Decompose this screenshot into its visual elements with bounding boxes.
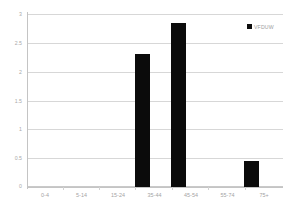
y-tick-label-2: 2 [0,69,22,75]
y-axis-line [27,12,28,189]
y-tick-label-0: 0 [0,183,22,189]
bar-45-54 [171,23,186,187]
chart-legend: VFDUW [247,22,274,31]
x-tickmark-5 [245,187,246,190]
bar-35-44 [135,54,150,187]
x-tick-label-55-74: 55-74 [221,192,235,199]
gridline-3 [27,14,283,15]
x-tick-label-5-14: 5-14 [76,192,87,199]
legend-label: VFDUW [254,24,274,30]
x-tick-label-35-44: 35-44 [148,192,162,199]
gridline-1 [27,129,283,130]
gridline-0_5 [27,158,283,159]
x-tick-label-45-54: 45-54 [184,192,198,199]
bar-75-plus [244,161,259,187]
x-tickmark-4 [208,187,209,190]
x-axis-tick-labels: 0-4 5-14 15-24 35-44 45-54 55-74 75+ [27,192,283,206]
x-tick-label-15-24: 15-24 [111,192,125,199]
plot-area [27,14,283,187]
gridline-1_5 [27,101,283,102]
y-tick-label-2_5: 2.5 [0,40,22,46]
y-tick-label-1_5: 1.5 [0,98,22,104]
x-tickmark-0 [63,187,64,190]
y-tick-label-0_5: 0.5 [0,155,22,161]
legend-swatch-icon [247,24,252,29]
x-tick-label-0-4: 0-4 [41,192,49,199]
x-tickmark-2 [135,187,136,190]
y-axis-tick-labels: 3 2.5 2 1.5 1 0.5 0 [0,0,24,217]
y-tick-label-1: 1 [0,126,22,132]
x-tickmark-1 [99,187,100,190]
gridline-2_5 [27,43,283,44]
y-tick-label-3: 3 [0,11,22,17]
x-tickmark-3 [172,187,173,190]
bar-chart: 3 2.5 2 1.5 1 0.5 0 0-4 5-14 15-24 35-44… [0,0,292,217]
x-tick-label-75-plus: 75+ [259,192,268,199]
gridline-2 [27,72,283,73]
